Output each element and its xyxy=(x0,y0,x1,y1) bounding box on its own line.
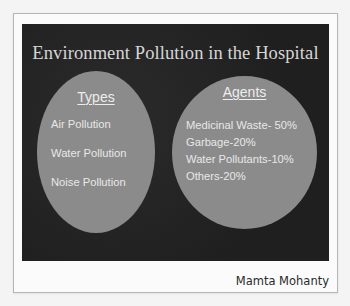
agents-heading: Agents xyxy=(172,84,317,100)
agents-list-item: Medicinal Waste- 50% xyxy=(186,118,297,135)
types-list-item: Water Pollution xyxy=(51,146,126,175)
presentation-slide: Environment Pollution in the Hospital Ty… xyxy=(22,24,329,261)
agents-list-item: Water Pollutants-10% xyxy=(186,152,297,169)
agents-list-item: Others-20% xyxy=(186,169,297,186)
agents-ellipse: Agents Medicinal Waste- 50% Garbage-20% … xyxy=(172,76,317,229)
agents-list-item: Garbage-20% xyxy=(186,135,297,152)
author-caption: Mamta Mohanty xyxy=(236,274,329,288)
types-heading: Types xyxy=(37,89,155,105)
types-ellipse: Types Air Pollution Water Pollution Nois… xyxy=(37,71,155,233)
agents-list: Medicinal Waste- 50% Garbage-20% Water P… xyxy=(186,118,297,186)
types-list-item: Noise Pollution xyxy=(51,175,126,204)
types-list-item: Air Pollution xyxy=(51,117,126,146)
types-list: Air Pollution Water Pollution Noise Poll… xyxy=(51,117,126,204)
slide-title: Environment Pollution in the Hospital xyxy=(22,43,329,64)
